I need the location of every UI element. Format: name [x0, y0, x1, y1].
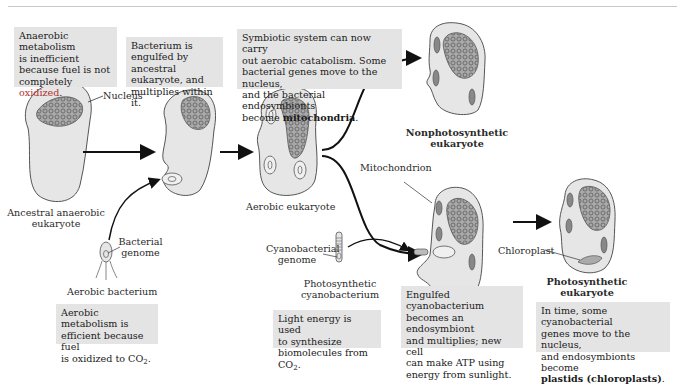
caption-aerobic-efficient: Aerobic metabolism is efficient because … — [56, 304, 158, 344]
caption-line: become mitochondria. — [242, 112, 397, 123]
caption-light-energy: Light energy is used to synthesize biomo… — [273, 310, 381, 348]
caption-line: multiplies within it. — [131, 86, 218, 109]
caption-punct: . — [298, 359, 301, 370]
caption-line: energy from sunlight. — [406, 369, 518, 380]
label-line: cyanobacterium — [300, 289, 380, 300]
label-line: Ancestral anaerobic — [6, 207, 106, 218]
plastids-term: plastids (chloroplasts) — [541, 373, 662, 384]
caption-punct: . — [662, 373, 665, 384]
caption-punct: . — [59, 87, 62, 98]
caption-punct: . — [355, 112, 358, 123]
caption-line: metabolism — [19, 41, 112, 52]
label-line: genome — [118, 247, 163, 258]
caption-line: Aerobic metabolism is — [61, 307, 153, 330]
caption-engulfed-bacterium: Bacterium is engulfed by ancestral eukar… — [126, 37, 223, 87]
mitochondrion-pointer — [404, 182, 432, 203]
label-mitochondrion: Mitochondrion — [360, 162, 432, 173]
caption-line: biomolecules from CO2. — [278, 347, 376, 370]
caption-line: engulfed by ancestral — [131, 51, 218, 74]
label-cyanobacterial-genome: Cyanobacterial genome — [266, 243, 328, 266]
caption-line: because fuel is not — [19, 64, 112, 75]
caption-line: out aerobic catabolism. Some — [242, 55, 397, 66]
label-photosynthetic-cyanobacterium: Photosynthetic cyanobacterium — [300, 278, 380, 301]
caption-line: and multiplies; new cell — [406, 335, 518, 358]
ancestral-eukaryote-cell — [25, 82, 91, 202]
caption-line: is inefficient — [19, 53, 112, 64]
label-nonphotosynthetic-eukaryote: Nonphotosynthetic eukaryote — [402, 127, 512, 150]
caption-line: bacterial genes move to the nucleus, — [242, 66, 397, 89]
label-line: Photosynthetic — [542, 276, 632, 287]
caption-line: can make ATP using — [406, 357, 518, 368]
caption-line: becomes an endosymbiont — [406, 312, 518, 335]
caption-symbiotic-system: Symbiotic system can now carry out aerob… — [237, 29, 402, 89]
label-line: eukaryote — [542, 287, 632, 298]
label-aerobic-eukaryote: Aerobic eukaryote — [246, 201, 335, 212]
caption-line: efficient because fuel — [61, 330, 153, 353]
nonphotosynthetic-eukaryote-cell — [427, 23, 485, 115]
caption-punct: . — [148, 353, 151, 364]
cyanobacterium-host-cell — [414, 187, 483, 297]
caption-line: Light energy is used — [278, 313, 376, 336]
caption-line: Engulfed cyanobacterium — [406, 289, 518, 312]
label-line: genome — [266, 254, 328, 265]
caption-line: Bacterium is — [131, 40, 218, 51]
label-line: Cyanobacterial — [266, 243, 328, 254]
caption-line: In time, some cyanobacterial — [541, 305, 665, 328]
label-line: Nonphotosynthetic — [402, 127, 512, 138]
caption-line: genes move to the nucleus, — [541, 328, 665, 351]
label-line: eukaryote — [6, 218, 106, 229]
caption-plastids: In time, some cyanobacterial genes move … — [536, 302, 670, 352]
caption-line: to synthesize — [278, 336, 376, 347]
label-chloroplast: Chloroplast — [498, 245, 554, 256]
caption-line: eukaryote, and — [131, 74, 218, 85]
caption-line: completely oxidized. — [19, 76, 112, 99]
caption-text: biomolecules from CO — [278, 347, 368, 369]
caption-line: plastids (chloroplasts). — [541, 373, 665, 384]
caption-engulfed-cyanobacterium: Engulfed cyanobacterium becomes an endos… — [401, 286, 523, 348]
caption-text: completely — [19, 76, 72, 87]
caption-line: and the bacterial endosymbionts — [242, 89, 397, 112]
caption-line: and endosymbionts become — [541, 351, 665, 374]
arrow-bacterium-to-cell — [109, 180, 158, 240]
label-aerobic-bacterium: Aerobic bacterium — [67, 286, 157, 297]
oxidized-highlight: oxidized — [19, 87, 59, 98]
caption-text: is oxidized to CO — [61, 353, 143, 364]
caption-line: Anaerobic — [19, 30, 112, 41]
caption-anaerobic-inefficient: Anaerobic metabolism is inefficient beca… — [14, 27, 117, 87]
photosynthetic-eukaryote-cell — [560, 179, 616, 273]
label-line: Photosynthetic — [300, 278, 380, 289]
caption-text: become — [242, 112, 283, 123]
aerobic-bacterium — [96, 242, 117, 280]
label-line: eukaryote — [402, 138, 512, 149]
label-photosynthetic-eukaryote: Photosynthetic eukaryote — [542, 276, 632, 299]
label-ancestral-eukaryote: Ancestral anaerobic eukaryote — [6, 207, 106, 230]
caption-line: Symbiotic system can now carry — [242, 32, 397, 55]
mitochondria-term: mitochondria — [283, 112, 355, 123]
label-line: Bacterial — [118, 236, 163, 247]
caption-line: is oxidized to CO2. — [61, 353, 153, 364]
label-nucleus: Nucleus — [103, 90, 143, 101]
label-bacterial-genome: Bacterial genome — [118, 236, 163, 259]
